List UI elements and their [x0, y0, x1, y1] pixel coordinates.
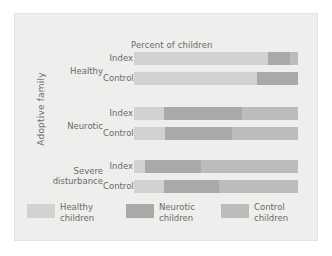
- bar-segment: [268, 52, 289, 65]
- legend-label-neurotic-line2: children: [159, 213, 195, 224]
- legend-label-neurotic-line1: Neurotic: [159, 202, 195, 213]
- chart-legend: Healthy children Neurotic children Contr…: [27, 202, 307, 226]
- legend-swatch-neurotic: [126, 204, 154, 218]
- legend-label-healthy-line1: Healthy: [60, 202, 94, 213]
- bar-segment: [290, 52, 298, 65]
- legend-label-control-line1: Control: [254, 202, 288, 213]
- legend-label-healthy: Healthy children: [60, 202, 94, 224]
- bar-segment: [201, 160, 298, 173]
- bar-neurotic-index: [134, 107, 298, 120]
- table-row: Control: [15, 180, 317, 193]
- bar-segment: [134, 72, 257, 85]
- row-label-healthy-index: Index: [103, 52, 133, 65]
- row-label-severe-index: Index: [103, 160, 133, 173]
- bar-segment: [145, 160, 201, 173]
- legend-swatch-healthy: [27, 204, 55, 218]
- row-label-severe-control: Control: [103, 180, 133, 193]
- legend-label-control: Control children: [254, 202, 288, 224]
- plot-title: Percent of children: [131, 40, 213, 50]
- bar-segment: [257, 72, 298, 85]
- legend-swatch-control: [221, 204, 249, 218]
- table-row: Index: [15, 160, 317, 173]
- bar-severe-control: [134, 180, 298, 193]
- table-row: Index: [15, 107, 317, 120]
- bar-segment: [242, 107, 298, 120]
- row-label-healthy-control: Control: [103, 72, 133, 85]
- bar-segment: [134, 127, 165, 140]
- bar-healthy-control: [134, 72, 298, 85]
- bar-segment: [134, 160, 145, 173]
- bar-segment: [134, 180, 164, 193]
- bar-segment: [134, 107, 164, 120]
- legend-label-healthy-line2: children: [60, 213, 94, 224]
- bar-severe-index: [134, 160, 298, 173]
- table-row: Control: [15, 127, 317, 140]
- chart-figure: Adoptive family Percent of children Heal…: [14, 13, 318, 241]
- bar-segment: [164, 180, 220, 193]
- table-row: Index: [15, 52, 317, 65]
- bar-neurotic-control: [134, 127, 298, 140]
- legend-label-neurotic: Neurotic children: [159, 202, 195, 224]
- bar-segment: [134, 52, 268, 65]
- row-label-neurotic-control: Control: [103, 127, 133, 140]
- table-row: Control: [15, 72, 317, 85]
- bar-segment: [219, 180, 298, 193]
- legend-label-control-line2: children: [254, 213, 288, 224]
- bar-healthy-index: [134, 52, 298, 65]
- bar-segment: [164, 107, 243, 120]
- bar-segment: [232, 127, 298, 140]
- row-label-neurotic-index: Index: [103, 107, 133, 120]
- bar-segment: [165, 127, 232, 140]
